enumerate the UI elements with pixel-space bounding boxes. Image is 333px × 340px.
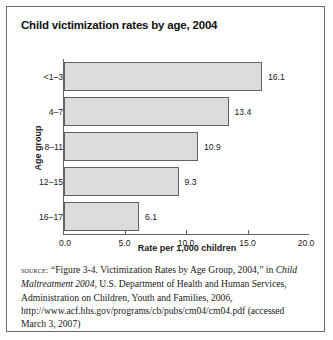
bar-value-label: 10.9 — [204, 142, 221, 152]
bar-value-label: 13.4 — [235, 107, 252, 117]
page-title: Child victimization rates by age, 2004 — [21, 19, 217, 31]
source-note: source: “Figure 3-4. Victimization Rates… — [21, 263, 309, 330]
bar-value-label: 16.1 — [268, 72, 285, 82]
x-axis-line — [63, 234, 309, 235]
y-tick-label: 8–11 — [25, 142, 63, 152]
y-tick-label: <1–3 — [25, 72, 63, 82]
source-text-part-1: “Figure 3-4. Victimization Rates by Age … — [49, 264, 276, 275]
x-axis-tick — [248, 230, 249, 234]
bar — [64, 167, 179, 196]
source-label: source: — [21, 265, 49, 275]
figure-frame: Child victimization rates by age, 2004 A… — [6, 6, 325, 332]
bar — [64, 132, 198, 161]
y-axis-tick-labels: <1–3 4–7 8–11 12–15 16–17 — [25, 59, 63, 234]
y-tick-label: 16–17 — [25, 212, 63, 222]
bar — [64, 202, 139, 231]
x-axis-label: Rate per 1,000 children — [63, 243, 311, 253]
bar-value-label: 9.3 — [185, 177, 197, 187]
x-axis-tick — [186, 230, 187, 234]
y-tick-label: 4–7 — [25, 107, 63, 117]
bar — [64, 62, 262, 91]
x-axis-tick — [125, 230, 126, 234]
bar-chart: Age group <1–3 4–7 8–11 12–15 16–17 16.1… — [7, 47, 324, 255]
y-tick-label: 12–15 — [25, 177, 63, 187]
bar-value-label: 6.1 — [145, 212, 157, 222]
bar — [64, 97, 229, 126]
plot-area: 16.1 13.4 10.9 9.3 6.1 0.0 5.0 10.0 15.0… — [63, 59, 311, 234]
